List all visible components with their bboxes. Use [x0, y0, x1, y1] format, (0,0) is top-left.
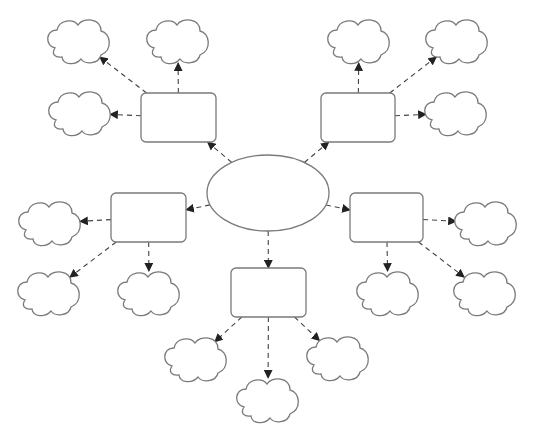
detail-cloud-left-2 — [18, 272, 80, 316]
detail-cloud-left-1 — [19, 202, 81, 246]
arrow-top-right-to-cloud-3 — [395, 114, 426, 115]
subtopic-box-top-left — [141, 93, 216, 142]
arrow-bottom-to-cloud-3 — [294, 317, 319, 341]
arrow-center-to-top-left — [208, 142, 232, 162]
arrow-right-to-cloud-2 — [387, 242, 388, 271]
arrow-top-right-to-cloud-2 — [390, 57, 437, 93]
detail-cloud-top-left-2 — [147, 20, 209, 64]
arrow-right-to-cloud-1 — [423, 220, 456, 222]
detail-cloud-top-left-1 — [48, 20, 110, 64]
detail-cloud-top-right-2 — [426, 20, 488, 64]
subtopic-box-top-right — [321, 93, 395, 142]
subtopic-box-left — [111, 193, 186, 242]
arrow-center-to-top-right — [304, 142, 328, 162]
subtopic-box-bottom — [231, 268, 306, 317]
detail-cloud-bottom-3 — [307, 337, 369, 381]
detail-cloud-right-1 — [455, 202, 517, 246]
mind-map-diagram — [0, 0, 535, 434]
arrow-left-to-cloud-1 — [80, 220, 111, 222]
detail-cloud-top-right-3 — [425, 92, 487, 136]
detail-cloud-left-3 — [118, 272, 180, 316]
detail-cloud-top-right-1 — [328, 20, 390, 64]
detail-cloud-bottom-2 — [237, 379, 299, 423]
subtopic-box-right — [350, 193, 423, 242]
central-topic-ellipse — [207, 155, 329, 231]
arrow-center-to-right — [326, 205, 350, 210]
shapes-layer — [18, 20, 517, 423]
detail-cloud-bottom-1 — [165, 338, 227, 382]
arrow-top-left-to-cloud-3 — [110, 114, 141, 115]
arrow-center-to-left — [186, 205, 210, 210]
arrow-bottom-to-cloud-1 — [215, 317, 242, 342]
detail-cloud-top-left-3 — [49, 92, 111, 136]
arrow-top-left-to-cloud-1 — [100, 57, 147, 93]
detail-cloud-right-2 — [357, 272, 419, 316]
detail-cloud-right-3 — [454, 272, 516, 316]
arrow-right-to-cloud-3 — [418, 242, 464, 277]
arrow-left-to-cloud-2 — [70, 242, 116, 277]
